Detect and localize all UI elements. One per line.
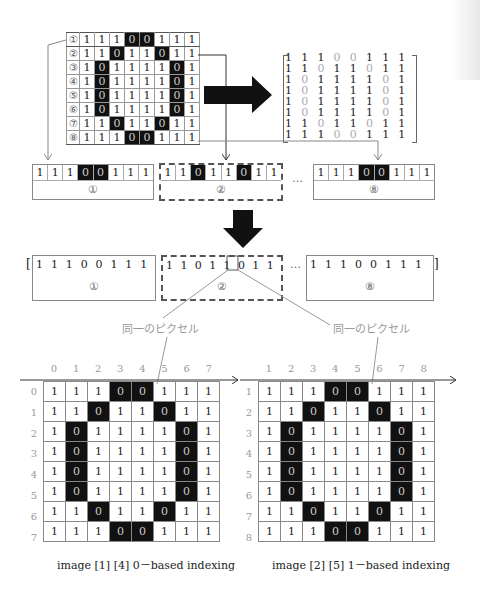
row2-connector bbox=[198, 55, 226, 160]
connector-overlay bbox=[0, 0, 480, 598]
row1-connector bbox=[48, 40, 66, 160]
down-arrow-icon bbox=[223, 210, 263, 248]
right-arrow-icon bbox=[204, 76, 272, 113]
row8-connector bbox=[198, 141, 378, 160]
highlighted-pixel-box bbox=[227, 256, 238, 270]
